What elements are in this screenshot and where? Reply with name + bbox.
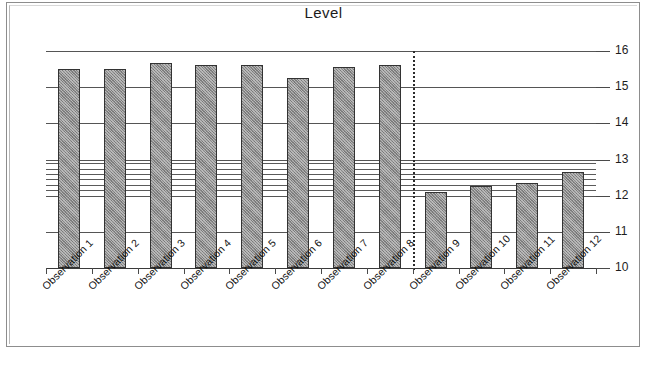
bar-5[interactable] (241, 65, 263, 268)
x-tick-7 (367, 268, 368, 274)
x-tick-0 (46, 268, 47, 274)
reference-line-5 (46, 169, 596, 170)
x-tick-9 (459, 268, 460, 274)
x-tick-11 (550, 268, 551, 274)
gridline-14 (46, 123, 596, 124)
bar-2[interactable] (104, 69, 126, 268)
y-tick-14 (596, 123, 610, 124)
bar-8[interactable] (379, 65, 401, 268)
x-tick-2 (138, 268, 139, 274)
gridline-15 (46, 87, 596, 88)
x-tick-1 (92, 268, 93, 274)
x-tick-10 (504, 268, 505, 274)
bar-3[interactable] (150, 63, 172, 268)
reference-line-3 (46, 179, 596, 180)
gridline-13 (46, 160, 596, 161)
reference-line-1 (46, 190, 596, 191)
reference-line-4 (46, 174, 596, 175)
y-axis-label-14: 14 (615, 115, 628, 129)
y-axis-label-10: 10 (615, 260, 628, 274)
bar-4[interactable] (195, 65, 217, 268)
chart-screenshot: Level 16151413121110 Observation 1Observ… (0, 0, 647, 366)
bar-1[interactable] (58, 69, 80, 268)
gridline-12 (46, 196, 596, 197)
x-tick-3 (184, 268, 185, 274)
y-axis-label-11: 11 (615, 224, 627, 238)
bar-6[interactable] (287, 78, 309, 268)
x-tick-6 (321, 268, 322, 274)
x-tick-5 (275, 268, 276, 274)
y-tick-12 (596, 196, 610, 197)
y-tick-16 (596, 51, 610, 52)
gridline-11 (46, 232, 596, 233)
reference-line-6 (46, 163, 596, 164)
y-axis-label-12: 12 (615, 188, 628, 202)
y-axis-label-15: 15 (615, 79, 628, 93)
y-axis-label-16: 16 (615, 43, 628, 57)
y-axis-label-13: 13 (615, 152, 628, 166)
x-tick-8 (413, 268, 414, 274)
y-tick-10 (596, 268, 610, 269)
group-separator-line (413, 51, 415, 270)
y-tick-13 (596, 160, 610, 161)
x-tick-4 (229, 268, 230, 274)
y-tick-11 (596, 232, 610, 233)
reference-line-2 (46, 185, 596, 186)
chart-title: Level (0, 4, 647, 21)
bar-7[interactable] (333, 67, 355, 268)
y-tick-15 (596, 87, 610, 88)
plot-area (46, 51, 596, 268)
x-tick-12 (596, 268, 597, 274)
gridline-16 (46, 51, 596, 52)
